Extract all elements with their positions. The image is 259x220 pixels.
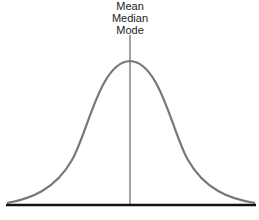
normal-distribution-diagram <box>0 0 259 220</box>
bell-curve <box>7 61 255 203</box>
